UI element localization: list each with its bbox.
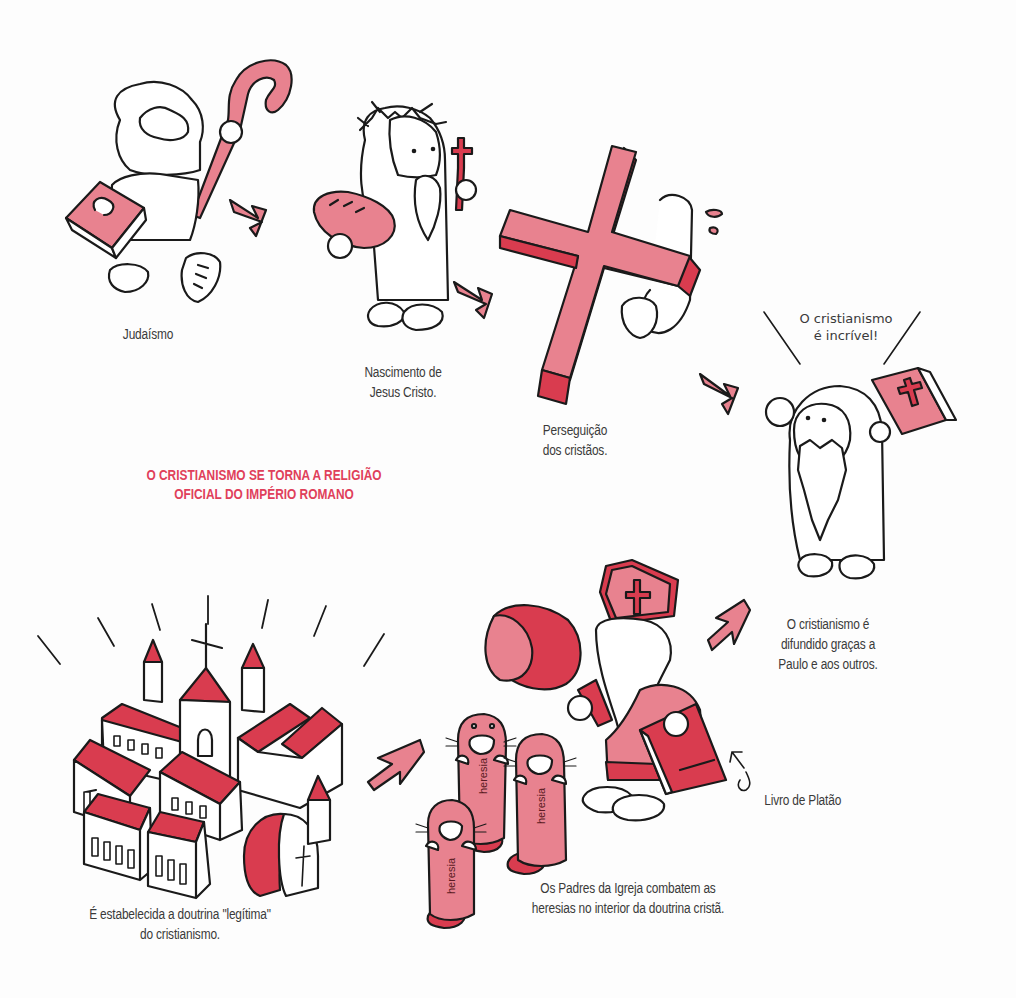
caption-doutrina: É estabelecida a doutrina "legítima" do … <box>78 904 282 944</box>
radiant-lines <box>38 596 384 666</box>
caption-line: Paulo e aos outros. <box>769 654 888 674</box>
caption-livro-platao: Livro de Platão <box>764 790 858 810</box>
speech-line: é incrível! <box>786 327 906 344</box>
caption-nascimento: Nascimento de Jesus Cristo. <box>356 362 450 402</box>
illustration-canvas: Judaísmo Nascimento de Jesus Cristo. Per… <box>0 0 1016 998</box>
book-label: Livro de Platão <box>764 790 858 810</box>
caption-paulo: O cristianismo é difundido graças a Paul… <box>769 614 888 674</box>
caption-perseguicao: Perseguição dos cristãos. <box>528 420 622 460</box>
pointer-arrow-icon <box>730 752 750 790</box>
mole-label: heresia <box>445 851 457 901</box>
caption-line: heresias no interior da doutrina cristã. <box>518 898 739 918</box>
city-of-churches-icon <box>74 624 342 898</box>
caption-line: Perseguição <box>528 420 622 440</box>
arrow-left-icon <box>368 740 424 790</box>
caption-line: do cristianismo. <box>78 924 282 944</box>
mole-label: heresia <box>477 751 489 801</box>
headline-official-religion: O CRISTIANISMO SE TORNA A RELIGIÃO OFICI… <box>128 466 400 504</box>
caption-line: É estabelecida a doutrina "legítima" <box>78 904 282 924</box>
headline-line: O CRISTIANISMO SE TORNA A RELIGIÃO <box>128 466 400 485</box>
caption-line: Judaísmo <box>117 324 178 344</box>
persecution-cross-icon <box>500 146 722 404</box>
arrow-down-left-icon <box>708 600 750 650</box>
caption-line: Jesus Cristo. <box>356 382 450 402</box>
caption-line: O cristianismo é <box>769 614 888 634</box>
caption-line: dos cristãos. <box>528 440 622 460</box>
speech-bubble-paulo: O cristianismo é incrível! <box>786 310 906 344</box>
arrow-right-icon <box>454 282 492 318</box>
caption-line: Nascimento de <box>356 362 450 382</box>
paul-figure-icon <box>766 368 956 578</box>
judaism-figure-icon <box>66 60 292 302</box>
caption-padres: Os Padres da Igreja combatem as heresias… <box>518 878 739 918</box>
arrow-right-icon <box>230 200 266 236</box>
headline-line: OFICIAL DO IMPÉRIO ROMANO <box>128 485 400 504</box>
caption-line: difundido graças a <box>769 634 888 654</box>
jesus-figure-icon <box>314 102 476 330</box>
caption-line: Os Padres da Igreja combatem as <box>518 878 739 898</box>
speech-line: O cristianismo <box>786 310 906 327</box>
arrow-right-icon <box>700 374 738 414</box>
caption-judaismo: Judaísmo <box>117 324 178 344</box>
mole-label: heresia <box>535 781 547 831</box>
